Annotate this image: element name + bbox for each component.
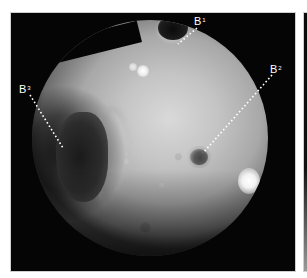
label-b3: B3 bbox=[19, 84, 31, 95]
endoscope-field-of-view bbox=[32, 20, 268, 256]
label-b1: B1 bbox=[194, 16, 206, 27]
label-b2: B2 bbox=[270, 64, 282, 75]
specular-highlight bbox=[238, 168, 260, 194]
opening-b2 bbox=[187, 146, 211, 168]
bottom-shadow bbox=[32, 170, 268, 256]
adjacent-image-panel-edge bbox=[304, 13, 307, 271]
specular-highlight bbox=[129, 63, 137, 71]
specular-highlight bbox=[137, 65, 149, 77]
